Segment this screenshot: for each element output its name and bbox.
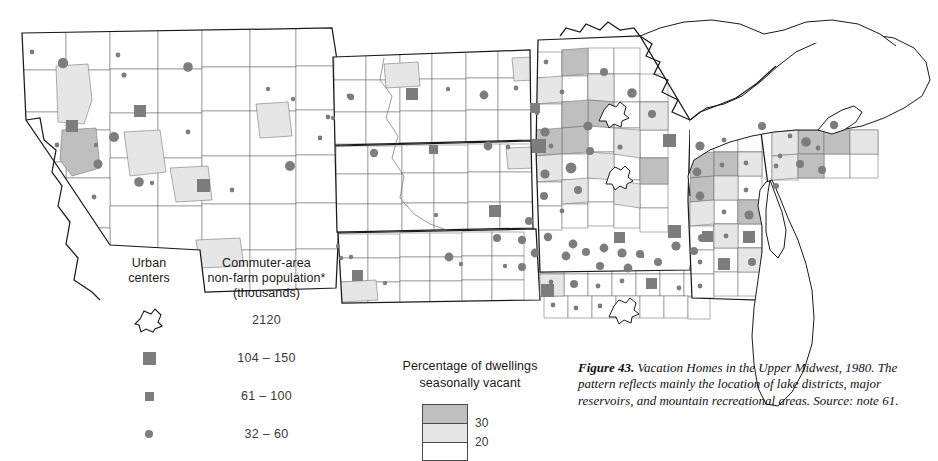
percentage-tick-20: 20 xyxy=(475,435,488,449)
urban-centers-header-line2: centers xyxy=(110,271,188,286)
percentage-swatch-20 xyxy=(422,423,468,442)
population-header: Commuter-area non-farm population* (thou… xyxy=(188,256,345,301)
legend-value-large-square: 104 – 150 xyxy=(188,351,345,365)
population-header-line2: non-farm population* xyxy=(188,271,345,286)
population-header-line3: (thousands) xyxy=(188,286,345,301)
figure-caption: Figure 43. Vacation Homes in the Upper M… xyxy=(578,360,918,409)
percentage-legend-title: Percentage of dwellings seasonally vacan… xyxy=(382,358,558,392)
urban-centers-header-line1: Urban xyxy=(110,256,188,271)
percentage-legend-scale: 30 20 xyxy=(422,404,518,461)
urban-centers-header: Urban centers xyxy=(110,256,188,286)
urban-center-star-icon xyxy=(110,307,188,333)
legend-row-small-square: 61 – 100 xyxy=(110,377,345,415)
state-nebraska-iowa xyxy=(332,228,547,308)
legend-row-large-square: 104 – 150 xyxy=(110,339,345,377)
small-square-icon xyxy=(110,392,188,401)
percentage-legend-title-line2: seasonally vacant xyxy=(382,375,558,392)
percentage-legend-title-line1: Percentage of dwellings xyxy=(382,358,558,375)
small-circle-icon xyxy=(110,430,188,438)
percentage-swatch-30 xyxy=(422,404,468,423)
legend-value-small-square: 61 – 100 xyxy=(188,389,345,403)
percentage-legend: Percentage of dwellings seasonally vacan… xyxy=(382,358,558,461)
symbol-legend-header: Urban centers Commuter-area non-farm pop… xyxy=(110,256,345,301)
percentage-class-30: 30 xyxy=(422,404,518,423)
percentage-tick-30: 30 xyxy=(475,416,488,430)
percentage-class-20: 20 xyxy=(422,423,518,442)
symbol-legend: Urban centers Commuter-area non-farm pop… xyxy=(110,256,345,453)
lake-superior-north-shore xyxy=(640,20,896,46)
state-north-dakota xyxy=(330,45,540,150)
legend-row-urban-center: 2120 xyxy=(110,301,345,339)
figure-number: Figure 43. xyxy=(578,360,634,375)
legend-row-small-circle: 32 – 60 xyxy=(110,415,345,453)
legend-value-urban-center: 2120 xyxy=(188,313,345,327)
percentage-class-low xyxy=(422,442,518,461)
large-square-icon xyxy=(110,352,188,365)
legend-value-small-circle: 32 – 60 xyxy=(188,427,345,441)
population-header-line1: Commuter-area xyxy=(188,256,345,271)
percentage-swatch-low xyxy=(422,442,468,461)
